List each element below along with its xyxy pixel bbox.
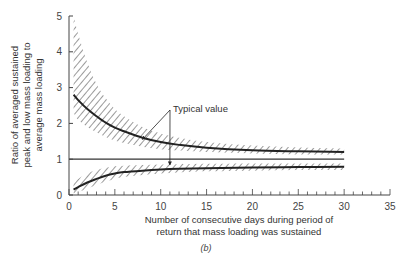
y-tick-label: 4 — [56, 46, 62, 57]
x-tick-label: 30 — [339, 201, 351, 212]
x-tick-label: 0 — [66, 201, 72, 212]
x-tick-label: 15 — [201, 201, 213, 212]
x-tick-label: 10 — [155, 201, 167, 212]
y-axis-title-line-1: Ratio of averaged sustained — [9, 46, 20, 164]
y-tick-label: 0 — [56, 190, 62, 201]
y-tick-label: 1 — [56, 154, 62, 165]
y-axis-title-line-2: peak and low mass loading to — [21, 42, 32, 167]
y-tick-label: 2 — [56, 118, 62, 129]
chart: 01234505101520253035 Ratio of averaged s… — [0, 0, 413, 253]
x-tick-label: 5 — [112, 201, 118, 212]
x-tick-label: 25 — [293, 201, 305, 212]
y-axis-title-line-3: average mass loading — [33, 59, 44, 152]
x-axis-title-line-1: Number of consecutive days during period… — [145, 214, 334, 225]
y-tick-label: 5 — [56, 11, 62, 22]
annotation-label: Typical value — [173, 103, 228, 114]
peak-hatched-band — [74, 16, 345, 155]
x-axis-title-line-2: return that mass loading was sustained — [157, 226, 322, 237]
x-tick-label: 35 — [384, 201, 396, 212]
y-axis-title: Ratio of averaged sustained peak and low… — [9, 42, 44, 167]
x-tick-label: 20 — [247, 201, 259, 212]
y-tick-label: 3 — [56, 82, 62, 93]
figure-caption: (b) — [201, 243, 212, 253]
